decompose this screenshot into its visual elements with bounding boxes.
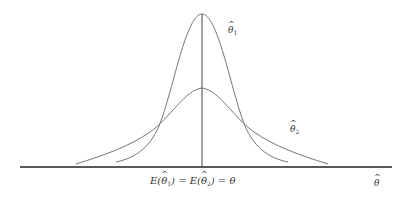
axis-center-label: E(θ1) = E(θ2) = θ	[150, 176, 235, 187]
label-theta1: θ1	[228, 26, 237, 36]
x-axis-label: θ	[374, 179, 379, 188]
label-theta2: θ2	[290, 125, 299, 135]
